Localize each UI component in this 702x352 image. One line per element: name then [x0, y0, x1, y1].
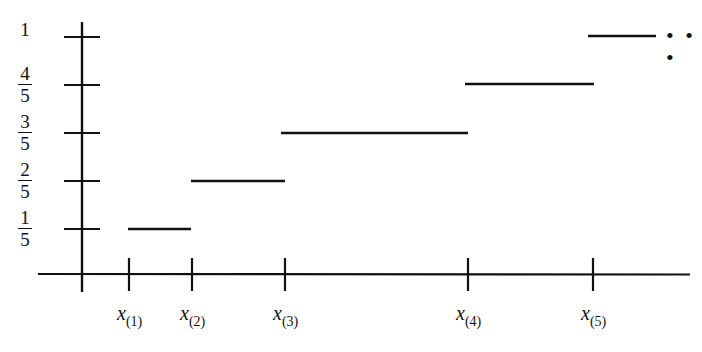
x-variable: x [273, 302, 282, 324]
fraction-denominator: 5 [18, 85, 32, 105]
fraction-4-5: 4 5 [18, 64, 32, 106]
x-subscript: (3) [282, 314, 298, 329]
fraction-denominator: 5 [18, 133, 32, 153]
y-tick-label-3-5: 3 5 [8, 112, 42, 154]
fraction-3-5: 3 5 [18, 112, 32, 154]
x-variable: x [456, 302, 465, 324]
continuation-dots-icon: • • • [666, 25, 702, 69]
x-variable: x [581, 302, 590, 324]
y-tick-label-1: 1 [8, 20, 42, 39]
plot-canvas [0, 0, 702, 352]
y-tick-label-4-5: 4 5 [8, 64, 42, 106]
fraction-denominator: 5 [18, 181, 32, 201]
fraction-numerator: 4 [18, 64, 32, 85]
x-tick-label-4: x(4) [456, 303, 481, 329]
empirical-cdf-figure: 1 4 5 3 5 2 5 1 5 x(1) x(2) x(3) x(4) [0, 0, 702, 352]
fraction-numerator: 3 [18, 112, 32, 133]
x-tick-label-3: x(3) [273, 303, 298, 329]
y-tick-label-2-5: 2 5 [8, 160, 42, 202]
x-tick-label-2: x(2) [180, 303, 205, 329]
x-tick-label-5: x(5) [581, 303, 606, 329]
fraction-numerator: 1 [18, 208, 32, 229]
y-tick-label-1-value: 1 [20, 20, 30, 39]
x-variable: x [117, 302, 126, 324]
fraction-denominator: 5 [18, 229, 32, 249]
x-subscript: (4) [465, 314, 481, 329]
x-variable: x [180, 302, 189, 324]
y-tick-label-1-5: 1 5 [8, 208, 42, 250]
fraction-numerator: 2 [18, 160, 32, 181]
x-subscript: (1) [126, 314, 142, 329]
x-subscript: (5) [590, 314, 606, 329]
fraction-2-5: 2 5 [18, 160, 32, 202]
x-subscript: (2) [189, 314, 205, 329]
x-tick-label-1: x(1) [117, 303, 142, 329]
fraction-1-5: 1 5 [18, 208, 32, 250]
